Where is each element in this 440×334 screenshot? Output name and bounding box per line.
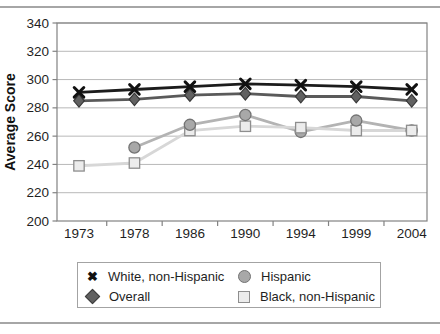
circle-marker-icon: [238, 270, 251, 283]
y-tick-label: 280: [26, 100, 49, 115]
x-tick-label: 1990: [230, 226, 260, 241]
x-tick-label: 1978: [119, 226, 149, 241]
legend-item-white-non-hispanic: ✖ White, non-Hispanic: [85, 269, 237, 284]
legend-item-black-non-hispanic: Black, non-Hispanic: [237, 289, 380, 304]
circle-marker-icon: [129, 142, 140, 153]
x-tick-label: 2004: [397, 226, 428, 241]
legend-item-hispanic: Hispanic: [237, 269, 380, 284]
square-marker-icon: [407, 125, 417, 135]
x-tick-label: 1986: [175, 226, 205, 241]
bottom-divider: [0, 322, 440, 324]
legend-item-overall: Overall: [85, 289, 237, 304]
y-tick-label: 260: [26, 129, 49, 144]
y-axis-title: Average Score: [2, 73, 18, 171]
diamond-marker-icon: [85, 289, 101, 305]
circle-marker-icon: [184, 119, 195, 130]
square-marker-icon: [351, 125, 361, 135]
y-tick-label: 220: [26, 185, 49, 200]
y-tick-label: 300: [26, 72, 49, 87]
circle-marker-icon: [240, 109, 251, 120]
legend-label: Overall: [109, 289, 150, 304]
legend: ✖ White, non-Hispanic Hispanic Overall B…: [77, 262, 381, 308]
x-tick-label: 1973: [64, 226, 94, 241]
y-tick-label: 340: [26, 16, 49, 31]
x-marker-icon: ✖: [85, 270, 99, 284]
y-tick-label: 240: [26, 157, 49, 172]
legend-label: Hispanic: [261, 269, 311, 284]
x-tick-label: 1994: [286, 226, 317, 241]
diamond-marker-icon: [406, 94, 417, 107]
square-marker-icon: [74, 161, 84, 171]
circle-marker-icon: [351, 115, 362, 126]
square-marker-icon: [129, 158, 139, 168]
y-tick-label: 320: [26, 44, 49, 59]
chart-page: 2002202402602803003203401973197819861990…: [0, 0, 440, 334]
square-marker-icon: [240, 121, 250, 131]
y-tick-label: 200: [26, 214, 49, 229]
diamond-marker-icon: [296, 90, 307, 103]
legend-label: Black, non-Hispanic: [260, 289, 375, 304]
legend-label: White, non-Hispanic: [108, 269, 224, 284]
square-marker-icon: [238, 291, 250, 303]
square-marker-icon: [296, 122, 306, 132]
x-tick-label: 1999: [341, 226, 371, 241]
